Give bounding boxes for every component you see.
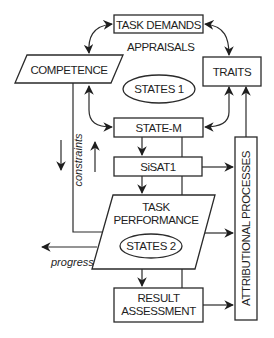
state-m-label: STATE-M [136,122,182,134]
node-sisat1: SiSAT1 [114,157,202,176]
node-task-demands: TASK DEMANDS [114,15,203,33]
result-assessment-label-line1: RESULT [137,292,179,304]
node-states1: STATES 1 [123,75,195,103]
task-demands-label: TASK DEMANDS [116,19,202,31]
traits-label: TRAITS [213,66,252,78]
node-competence: COMPETENCE [15,55,123,83]
appraisals-label: APPRAISALS [127,41,195,53]
states1-label: STATES 1 [134,83,183,95]
node-states2: STATES 2 [120,234,182,258]
node-state-m: STATE-M [114,118,203,137]
edge-traits-statem [205,87,229,127]
states2-label: STATES 2 [126,240,175,252]
node-attributional-processes: ATTRIBUTIONAL PROCESSES [235,137,257,320]
sisat1-label: SiSAT1 [140,161,176,173]
edge-competence-statem [89,86,112,127]
edge-taskdemands-competence [89,24,112,53]
diagram-canvas: TASK DEMANDS APPRAISALS COMPETENCE TRAIT… [0,0,274,338]
task-performance-label-line2: PERFORMANCE [113,214,199,226]
result-assessment-label-line2: ASSESSMENT [121,305,196,317]
competence-label: COMPETENCE [30,64,108,76]
edge-taskdemands-traits [205,24,229,55]
progress-label: progress [50,256,94,268]
task-performance-label-line1: TASK [142,201,170,213]
node-traits: TRAITS [203,57,261,86]
attributional-processes-label: ATTRIBUTIONAL PROCESSES [240,150,252,306]
constraints-label: constraints [72,133,84,187]
node-result-assessment: RESULT ASSESSMENT [114,288,203,322]
